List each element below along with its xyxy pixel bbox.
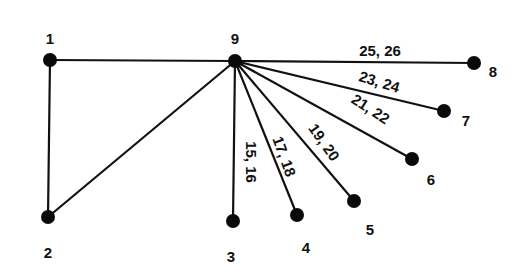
edge-9-7 [235, 61, 444, 111]
node-4 [290, 208, 304, 222]
edge-9-3 [233, 61, 235, 221]
edge-9-8 [235, 61, 474, 63]
node-label-1: 1 [46, 30, 54, 47]
node-label-9: 9 [231, 30, 239, 47]
node-label-4: 4 [302, 239, 311, 256]
node-label-3: 3 [227, 248, 235, 265]
edge-label-9-5: 19, 20 [305, 120, 343, 164]
edge-label-9-6: 21, 22 [349, 90, 393, 127]
node-8 [467, 56, 481, 70]
node-2 [41, 210, 55, 224]
node-label-2: 2 [44, 244, 52, 261]
edge-label-9-8: 25, 26 [359, 42, 401, 59]
node-label-7: 7 [462, 112, 470, 129]
node-6 [405, 152, 419, 166]
edge-1-9 [50, 60, 235, 61]
node-5 [347, 194, 361, 208]
edge-1-2 [48, 60, 50, 217]
node-label-6: 6 [427, 171, 435, 188]
graph-diagram: 15, 1617, 1819, 2021, 2223, 2425, 26 123… [0, 0, 524, 278]
node-9 [228, 54, 242, 68]
edge-label-9-3: 15, 16 [243, 141, 260, 183]
node-7 [437, 104, 451, 118]
node-3 [226, 214, 240, 228]
edge-2-9 [48, 61, 235, 217]
node-label-5: 5 [366, 221, 374, 238]
node-label-8: 8 [489, 63, 497, 80]
node-1 [43, 53, 57, 67]
